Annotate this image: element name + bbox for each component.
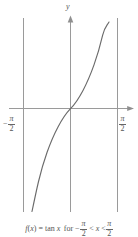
x-tick-label-positive-half-pi: π 2 [119,115,126,133]
caption-close-paren: ) [34,225,37,233]
fraction-denominator: 2 [81,230,87,237]
fraction-pi-over-two: π 2 [119,115,126,133]
caption-bounded-variable: x [96,225,100,233]
fraction-numerator: π [9,115,15,124]
fraction-pi-over-two: π 2 [8,115,15,133]
y-axis-label: y [66,3,70,11]
fraction-denominator: 2 [120,125,126,134]
x-tick-label-negative-half-pi: − π 2 [3,115,15,133]
fraction-denominator: 2 [9,125,15,134]
caption-expression: tan [45,225,55,233]
caption-equals: = [38,225,43,233]
y-axis-arrowhead-icon [68,16,74,23]
caption-for-word: for [64,225,73,233]
fraction-numerator: π [119,115,125,124]
fraction-denominator: 2 [106,230,112,237]
caption-expression-variable: x [57,225,61,233]
tangent-plot [0,0,138,236]
x-axis-arrowhead-icon [127,106,134,111]
figure-caption: f ( x ) = tan x for − π 2 < x < π 2 [0,220,138,236]
caption-lower-bound-fraction: π 2 [80,220,87,236]
caption-upper-bound-fraction: π 2 [106,220,113,236]
caption-less-than-left: < [89,225,94,233]
fraction-numerator: π [106,220,112,229]
tangent-function-figure: y − π 2 π 2 f ( x ) = tan x for − π [0,0,138,236]
fraction-numerator: π [81,220,87,229]
